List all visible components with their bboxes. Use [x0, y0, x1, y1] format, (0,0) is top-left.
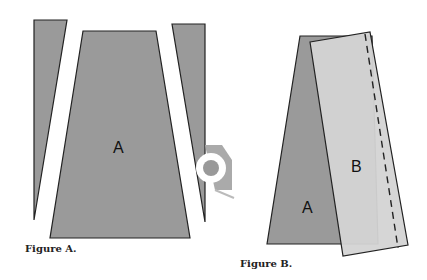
piece-label-a: A	[113, 139, 124, 156]
piece-label-a2: A	[302, 199, 313, 216]
center-trapezoid	[50, 31, 190, 238]
caption-figure-b: Figure B.	[240, 258, 292, 269]
caption-figure-a: Figure A.	[25, 243, 77, 254]
piece-label-b: B	[351, 158, 362, 175]
figure-canvas: A B A	[0, 0, 427, 280]
figure-b: B A	[267, 32, 408, 256]
figure-a: A	[34, 20, 234, 238]
